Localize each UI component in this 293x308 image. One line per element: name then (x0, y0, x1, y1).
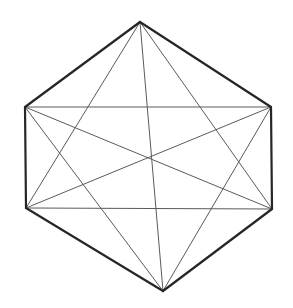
edge-left-side (25, 107, 26, 208)
wireframe-polyhedron-svg (0, 0, 293, 308)
edge-right-side (271, 107, 272, 209)
figure-canvas (0, 0, 293, 308)
background (0, 0, 293, 308)
